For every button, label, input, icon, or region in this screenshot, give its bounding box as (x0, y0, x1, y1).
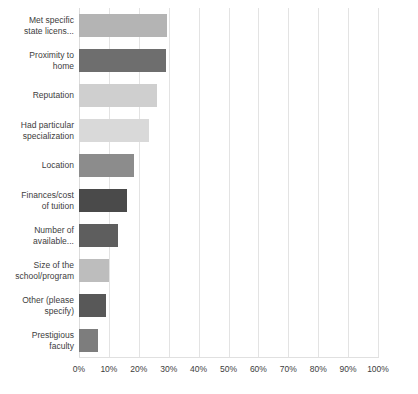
bar (79, 49, 166, 72)
category-label-line: state licens... (24, 26, 74, 37)
gridline-100% (378, 8, 379, 358)
category-label-line: Location (42, 160, 74, 171)
category-label-line: Size of the (34, 260, 74, 271)
bar-row (79, 8, 378, 43)
category-label-line: Met specific (29, 15, 74, 26)
category-label: Size of theschool/program (0, 253, 74, 288)
bar-row (79, 183, 378, 218)
category-label-line: Had particular (21, 120, 74, 131)
bar (79, 259, 109, 282)
category-label: Location (0, 148, 74, 183)
category-axis-labels: Met specificstate licens...Proximity toh… (0, 8, 74, 358)
category-label-line: Reputation (33, 90, 74, 101)
category-label-line: Finances/cost (21, 190, 74, 201)
category-label-line: Number of (34, 225, 74, 236)
x-tick-label: 70% (280, 364, 297, 374)
bar (79, 294, 106, 317)
x-tick-label: 90% (340, 364, 357, 374)
category-label-line: specialization (23, 131, 74, 142)
bar-row (79, 78, 378, 113)
category-label: Met specificstate licens... (0, 8, 74, 43)
bar-row (79, 323, 378, 358)
category-label-line: available... (33, 236, 74, 247)
bar (79, 189, 127, 212)
category-label: Other (pleasespecify) (0, 288, 74, 323)
category-label: Reputation (0, 78, 74, 113)
category-label-line: Proximity to (29, 50, 74, 61)
x-tick-label: 60% (250, 364, 267, 374)
bar (79, 84, 157, 107)
x-tick-label: 0% (73, 364, 85, 374)
category-label-line: faculty (49, 341, 74, 352)
category-label: Proximity tohome (0, 43, 74, 78)
category-label-line: of tuition (42, 201, 74, 212)
plot-area (79, 8, 378, 358)
bar (79, 224, 118, 247)
bar-row (79, 148, 378, 183)
category-label-line: specify) (45, 306, 74, 317)
bar (79, 14, 167, 37)
category-label-line: school/program (15, 271, 74, 282)
bar (79, 154, 134, 177)
category-label: Number ofavailable... (0, 218, 74, 253)
x-tick-label: 20% (130, 364, 147, 374)
x-tick-label: 50% (220, 364, 237, 374)
bar-row (79, 288, 378, 323)
bar (79, 119, 149, 142)
bar-row (79, 218, 378, 253)
bar-rows (79, 8, 378, 358)
bar-chart: Met specificstate licens...Proximity toh… (0, 0, 418, 394)
category-label: Had particularspecialization (0, 113, 74, 148)
category-label-line: Prestigious (32, 330, 74, 341)
x-tick-label: 30% (160, 364, 177, 374)
category-label: Finances/costof tuition (0, 183, 74, 218)
x-axis-labels: 0%10%20%30%40%50%60%70%80%90%100% (79, 358, 378, 388)
bar-row (79, 43, 378, 78)
x-tick-label: 10% (100, 364, 117, 374)
bar-row (79, 253, 378, 288)
category-label-line: Other (please (22, 295, 74, 306)
category-label-line: home (53, 61, 74, 72)
category-label: Prestigiousfaculty (0, 323, 74, 358)
bar-row (79, 113, 378, 148)
bar (79, 329, 98, 352)
x-tick-label: 80% (310, 364, 327, 374)
x-tick-label: 40% (190, 364, 207, 374)
x-tick-label: 100% (367, 364, 389, 374)
